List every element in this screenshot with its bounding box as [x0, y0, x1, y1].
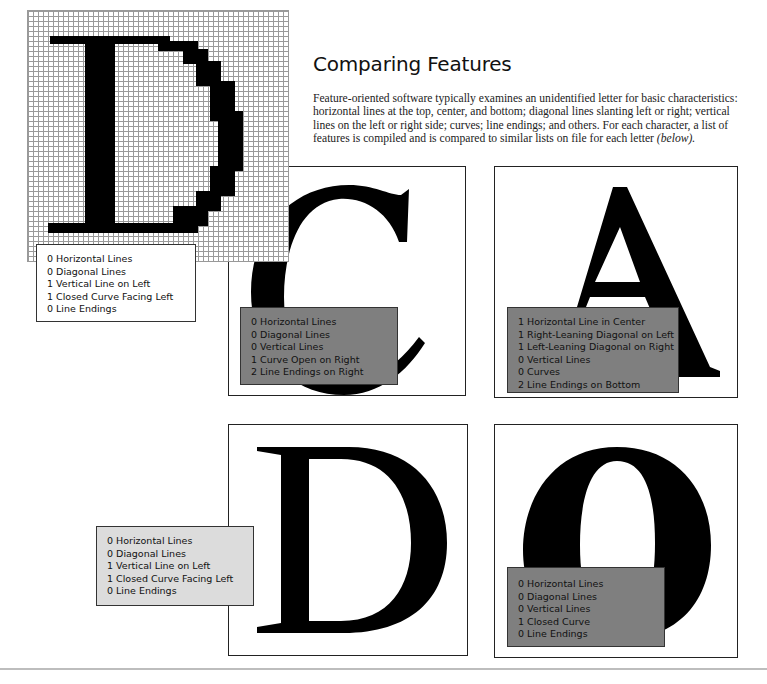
feature-line: 0 Vertical Lines: [251, 341, 397, 354]
feature-line: 0 Horizontal Lines: [518, 578, 664, 591]
feature-line: 1 Closed Curve Facing Left: [107, 573, 253, 586]
feature-line: 0 Vertical Lines: [518, 603, 664, 616]
letter-d-glyph: [229, 425, 468, 656]
letter-d-features: 0 Horizontal Lines 0 Diagonal Lines 1 Ve…: [96, 526, 254, 606]
page-divider: [0, 668, 767, 670]
feature-line: 1 Closed Curve: [518, 616, 664, 629]
feature-line: 0 Diagonal Lines: [107, 548, 253, 561]
pixel-grid-letter: [27, 10, 289, 262]
feature-line: 2 Line Endings on Bottom: [518, 379, 678, 392]
feature-line: 0 Line Endings: [518, 628, 664, 641]
feature-line: 2 Line Endings on Right: [251, 366, 397, 379]
letter-c-features: 0 Horizontal Lines 0 Diagonal Lines 0 Ve…: [240, 307, 398, 385]
feature-line: 0 Diagonal Lines: [518, 591, 664, 604]
feature-line: 0 Horizontal Lines: [107, 535, 253, 548]
intro-suffix: (below).: [657, 132, 695, 145]
intro-paragraph: Feature-oriented software typically exam…: [313, 92, 753, 145]
letter-a-features: 1 Horizontal Line in Center 1 Right-Lean…: [507, 307, 679, 393]
feature-line: 0 Horizontal Lines: [251, 316, 397, 329]
feature-line: 0 Diagonal Lines: [47, 266, 195, 279]
feature-line: 1 Left-Leaning Diagonal on Right: [518, 341, 678, 354]
feature-line: 0 Line Endings: [107, 585, 253, 598]
feature-line: 1 Closed Curve Facing Left: [47, 291, 195, 304]
pixel-d-glyph: [28, 11, 289, 262]
feature-line: 0 Line Endings: [47, 303, 195, 316]
letter-o-features: 0 Horizontal Lines 0 Diagonal Lines 0 Ve…: [507, 567, 665, 647]
feature-line: 0 Curves: [518, 366, 678, 379]
page-title: Comparing Features: [313, 52, 512, 76]
feature-line: 0 Horizontal Lines: [47, 253, 195, 266]
feature-line: 1 Curve Open on Right: [251, 354, 397, 367]
feature-line: 1 Right-Leaning Diagonal on Left: [518, 329, 678, 342]
letter-panel-d: [228, 424, 468, 656]
feature-line: 1 Vertical Line on Left: [47, 278, 195, 291]
feature-line: 0 Diagonal Lines: [251, 329, 397, 342]
feature-line: 1 Vertical Line on Left: [107, 560, 253, 573]
feature-line: 0 Vertical Lines: [518, 354, 678, 367]
unknown-letter-features: 0 Horizontal Lines 0 Diagonal Lines 1 Ve…: [36, 244, 196, 322]
feature-line: 1 Horizontal Line in Center: [518, 316, 678, 329]
